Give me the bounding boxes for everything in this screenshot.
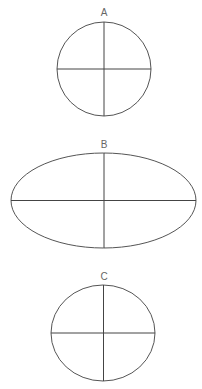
figure-b: B [11,139,196,248]
figure-c-label: C [100,271,107,282]
figure-a: A [57,7,151,116]
ellipse-diagram: A B C [0,0,202,389]
figure-a-label: A [101,7,108,18]
figure-c: C [51,271,155,381]
figure-b-label: B [101,139,108,150]
